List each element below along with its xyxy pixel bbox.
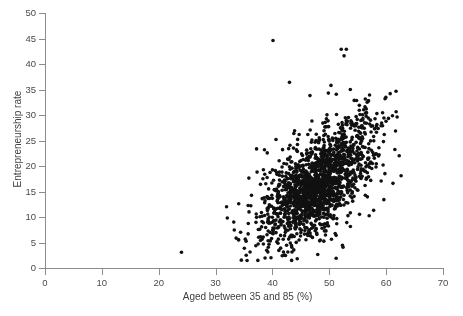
x-tick-label-text: 40	[252, 277, 292, 289]
y-tick-mark	[39, 166, 45, 167]
x-tick-label: 70	[423, 277, 463, 289]
x-tick-label: 60	[366, 277, 406, 289]
x-tick-label: 0	[25, 277, 65, 289]
y-tick-mark	[39, 115, 45, 116]
x-tick-label: 30	[196, 277, 236, 289]
y-tick-mark	[39, 64, 45, 65]
x-tick-label: 40	[252, 277, 292, 289]
x-tick-mark	[102, 269, 103, 275]
x-tick-mark	[159, 269, 160, 275]
x-axis-line	[45, 268, 444, 269]
y-tick-mark	[39, 141, 45, 142]
x-tick-mark	[272, 269, 273, 275]
x-tick-label-text: 10	[82, 277, 122, 289]
y-tick-mark	[39, 13, 45, 14]
y-tick-label: 0	[0, 263, 36, 273]
x-tick-label-text: 50	[309, 277, 349, 289]
y-tick-label-text: 5	[2, 238, 36, 248]
scatter-plot-figure: 05101520253035404550 010203040506070 Ent…	[0, 0, 463, 316]
x-tick-mark	[386, 269, 387, 275]
x-tick-label-text: 60	[366, 277, 406, 289]
y-tick-label-text: 0	[2, 263, 36, 273]
y-tick-label: 5	[0, 238, 36, 248]
x-tick-label: 10	[82, 277, 122, 289]
y-tick-mark	[39, 243, 45, 244]
y-tick-label: 50	[0, 8, 36, 18]
x-tick-label-text: 20	[139, 277, 179, 289]
y-tick-mark	[39, 217, 45, 218]
y-tick-mark	[39, 39, 45, 40]
x-tick-mark	[216, 269, 217, 275]
x-tick-mark	[443, 269, 444, 275]
x-tick-mark	[45, 269, 46, 275]
y-tick-mark	[39, 192, 45, 193]
x-tick-label-text: 70	[423, 277, 463, 289]
y-axis-title: Entrepreneurship rate	[12, 44, 24, 234]
x-tick-label-text: 0	[25, 277, 65, 289]
x-tick-mark	[329, 269, 330, 275]
y-tick-label: 45	[0, 34, 36, 44]
y-tick-label-text: 45	[2, 34, 36, 44]
y-tick-mark	[39, 90, 45, 91]
y-axis-line	[45, 13, 46, 269]
x-axis-title-text: Aged between 35 and 85 (%)	[151, 291, 313, 302]
y-tick-label-text: 50	[2, 8, 36, 18]
x-tick-label: 20	[139, 277, 179, 289]
x-axis-title: Aged between 35 and 85 (%)	[0, 291, 463, 303]
x-tick-label-text: 30	[196, 277, 236, 289]
x-tick-label: 50	[309, 277, 349, 289]
